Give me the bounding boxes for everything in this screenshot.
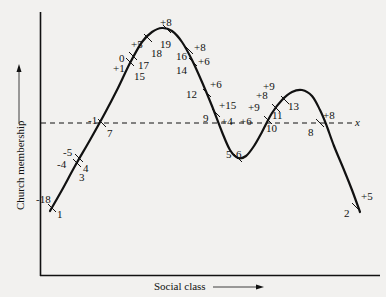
point-value-label: +8 bbox=[323, 109, 335, 121]
point-value-label: -4 bbox=[57, 158, 67, 170]
point-value-label: -1 bbox=[88, 114, 97, 126]
point-value-label: +9 bbox=[248, 101, 260, 113]
point-value-label: +5 bbox=[361, 190, 373, 202]
point-id-label: 1 bbox=[57, 208, 63, 220]
svg-text:Church membership: Church membership bbox=[14, 120, 26, 210]
point-id-label: 12 bbox=[186, 88, 197, 100]
point-value-label: -18 bbox=[36, 193, 51, 205]
point-labels: 1-183-44-57-115+117018+519+816+814+612+6… bbox=[36, 16, 373, 220]
point-value-label: +5 bbox=[131, 38, 143, 50]
point-id-label: 15 bbox=[134, 70, 146, 82]
point-value-label: +9 bbox=[263, 80, 275, 92]
point-value-label: +6 bbox=[240, 115, 252, 127]
point-id-label: 10 bbox=[266, 122, 278, 134]
point-value-label: 0 bbox=[119, 52, 125, 64]
point-id-label: 19 bbox=[160, 38, 172, 50]
y-axis-title: Church membership bbox=[14, 120, 26, 210]
arrow-up-icon bbox=[17, 64, 22, 72]
point-id-label: 5 bbox=[226, 148, 232, 160]
point-id-label: 14 bbox=[176, 64, 188, 76]
point-value-label: +8 bbox=[194, 41, 206, 53]
point-value-label: +8 bbox=[160, 16, 172, 28]
point-id-label: 17 bbox=[138, 59, 150, 71]
point-value-label: +15 bbox=[219, 99, 237, 111]
point-value-label: -5 bbox=[63, 146, 73, 158]
point-id-label: 11 bbox=[272, 109, 283, 121]
point-value-label: +4 bbox=[221, 115, 233, 127]
chart: x Church membership Social class 1-183-4… bbox=[0, 0, 386, 297]
point-value-label: +6 bbox=[198, 55, 210, 67]
point-id-label: 6 bbox=[236, 148, 242, 160]
x-axis-title: Social class bbox=[154, 280, 206, 292]
point-id-label: 8 bbox=[308, 126, 314, 138]
point-value-label: +6 bbox=[210, 78, 222, 90]
point-id-label: 16 bbox=[176, 50, 188, 62]
point-id-label: 2 bbox=[344, 207, 350, 219]
reference-line-label: x bbox=[354, 116, 360, 128]
arrow-right-icon bbox=[256, 285, 264, 290]
point-id-label: 4 bbox=[83, 162, 89, 174]
point-id-label: 13 bbox=[288, 100, 300, 112]
point-id-label: 7 bbox=[107, 127, 113, 139]
point-id-label: 9 bbox=[203, 112, 209, 124]
point-tick-mark bbox=[189, 58, 197, 66]
